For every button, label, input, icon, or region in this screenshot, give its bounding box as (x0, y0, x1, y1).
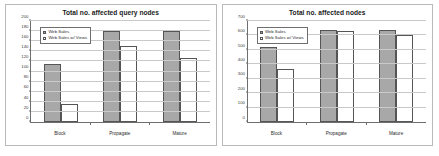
x-axis-labels-query-nodes: BlockPropagateMature (30, 131, 210, 136)
plot-wrap-affected-nodes: 0100200300400500600700 BlockPropagateMat… (223, 5, 433, 145)
y-axis-tick-mark (29, 100, 31, 101)
y-axis-tick-mark (246, 34, 248, 35)
gridline (31, 91, 210, 92)
y-axis-tick-mark (29, 80, 31, 81)
gridline (31, 71, 210, 72)
y-axis-tick-label: 700 (238, 15, 245, 19)
legend-swatch-icon-web-sales-views (43, 37, 46, 40)
x-axis-label: Mature (150, 131, 210, 136)
legend-label-web-sales-views: Web Sales w/ Views (265, 36, 304, 40)
y-axis-tick-label: 60 (24, 85, 29, 89)
y-axis-tick-label: 80 (24, 75, 29, 79)
legend-swatch-icon-web-sales-views (260, 37, 263, 40)
x-axis-label: Propagate (306, 131, 366, 136)
y-axis-tick-mark (29, 60, 31, 61)
y-axis-tick-mark (29, 20, 31, 21)
bar-web-sales-views (337, 31, 354, 122)
y-axis-tick-label: 180 (21, 25, 28, 29)
y-axis-tick-mark (246, 20, 248, 21)
bar-group (150, 21, 210, 122)
legend-swatch-icon-web-sales (43, 31, 46, 34)
y-axis-tick-label: 200 (238, 87, 245, 91)
legend-entry-web-sales-views: Web Sales w/ Views (43, 36, 87, 42)
x-axis-group-separator (306, 122, 307, 125)
legend-label-web-sales: Web Sales (48, 30, 69, 34)
y-axis-tick-label: 20 (24, 105, 29, 109)
bar-web-sales-views (277, 69, 294, 122)
gridline (31, 20, 210, 21)
y-axis-tick-label: 40 (24, 95, 29, 99)
y-axis-tick-label: 160 (21, 35, 28, 39)
y-axis-tick-mark (246, 121, 248, 122)
x-axis-label: Block (247, 131, 307, 136)
x-axis-label: Propagate (90, 131, 150, 136)
y-axis-tick-label: 300 (238, 72, 245, 76)
y-axis-tick-label: 100 (238, 101, 245, 105)
gridline (248, 78, 427, 79)
y-axis-tick-label: 600 (238, 29, 245, 33)
gridline (31, 101, 210, 102)
gridline (248, 92, 427, 93)
y-axis-tick-label: 140 (21, 45, 28, 49)
legend-entry-web-sales-views: Web Sales w/ Views (260, 36, 304, 42)
plot-wrap-query-nodes: 020406080100120140160180200 BlockPropaga… (6, 5, 216, 145)
bar-web-sales (163, 31, 180, 122)
y-axis-tick-mark (29, 40, 31, 41)
x-axis-label: Mature (366, 131, 426, 136)
bar-web-sales (103, 31, 120, 122)
x-axis-group-separator (90, 122, 91, 125)
y-axis-tick-label: 500 (238, 43, 245, 47)
y-axis-tick-label: 120 (21, 55, 28, 59)
y-axis-tick-mark (29, 30, 31, 31)
bar-group (91, 21, 151, 122)
y-axis-tick-mark (29, 50, 31, 51)
x-axis-labels-affected-nodes: BlockPropagateMature (247, 131, 427, 136)
y-axis-tick-mark (29, 110, 31, 111)
y-axis-tick-label: 0 (26, 116, 28, 120)
gridline (248, 107, 427, 108)
legend-affected-nodes: Web Sales Web Sales w/ Views (257, 27, 308, 44)
gridline (31, 111, 210, 112)
figure-container: Total no. affected query nodes 020406080… (0, 0, 439, 156)
bar-web-sales (260, 47, 277, 122)
bar-web-sales (44, 64, 61, 122)
y-axis-tick-mark (246, 92, 248, 93)
y-axis-tick-label: 200 (21, 15, 28, 19)
gridline (248, 49, 427, 50)
legend-label-web-sales: Web Sales (265, 30, 286, 34)
gridline (248, 20, 427, 21)
y-axis-tick-mark (29, 70, 31, 71)
chart-panel-affected-nodes: Total no. affected nodes 010020030040050… (222, 4, 434, 146)
gridline (31, 60, 210, 61)
chart-panel-query-nodes: Total no. affected query nodes 020406080… (5, 4, 217, 146)
legend-swatch-icon-web-sales (260, 31, 263, 34)
y-axis-tick-mark (29, 90, 31, 91)
y-axis-tick-mark (246, 106, 248, 107)
y-axis-tick-label: 100 (21, 65, 28, 69)
y-axis-tick-label: 400 (238, 58, 245, 62)
x-axis-label: Block (30, 131, 90, 136)
legend-query-nodes: Web Sales Web Sales w/ Views (40, 27, 91, 44)
legend-label-web-sales-views: Web Sales w/ Views (48, 36, 87, 40)
gridline (31, 81, 210, 82)
y-axis-tick-mark (246, 77, 248, 78)
x-axis-group-separator (149, 122, 150, 125)
bar-web-sales (379, 30, 396, 122)
y-axis-tick-mark (246, 63, 248, 64)
gridline (248, 63, 427, 64)
gridline (31, 50, 210, 51)
y-axis-tick-mark (246, 48, 248, 49)
bar-web-sales-views (61, 104, 78, 122)
y-axis-tick-label: 0 (243, 116, 245, 120)
bar-web-sales (320, 30, 337, 122)
y-axis-tick-mark (29, 121, 31, 122)
x-axis-group-separator (366, 122, 367, 125)
